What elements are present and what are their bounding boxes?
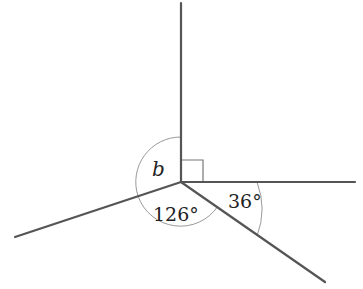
label-126: 126° <box>153 203 199 225</box>
label-b: b <box>152 157 165 181</box>
label-36: 36° <box>228 190 262 212</box>
right-angle-marker <box>181 160 203 182</box>
angle-diagram: b 126° 36° <box>0 0 363 289</box>
